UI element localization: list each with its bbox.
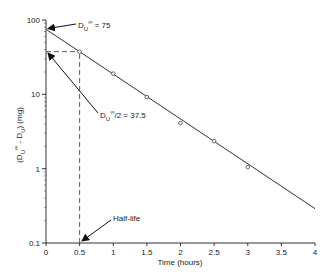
fitted-regression-line [46,29,315,208]
annotation-half-life: Half-life [82,214,141,241]
x-tick-label: 0 [44,248,49,257]
data-point [246,165,250,169]
half-life-reference-lines [46,52,80,243]
arrow-half [48,53,98,113]
x-ticks: 00.511.522.533.54 [44,243,318,257]
arrow-half-life [82,220,111,241]
x-tick-label: 3.5 [276,248,288,257]
x-tick-label: 3 [246,248,251,257]
y-axis-title: (DU∞ - DU) (mg) [13,107,26,163]
annotation-intercept: DU∞ = 75 [48,19,111,32]
half-life-label: Half-life [113,214,141,223]
x-tick-label: 4 [313,248,318,257]
y-ticks: 0.1110100 [27,16,46,248]
data-point [179,121,183,125]
y-tick-label: 10 [31,90,40,99]
data-point [212,139,216,143]
arrow-intercept [48,24,76,29]
semilog-elimination-chart: 0.1110100 00.511.522.533.54 Time (hours)… [0,0,333,278]
half-label: DU∞/2 = 37.5 [100,109,146,122]
y-tick-label: 0.1 [29,239,41,248]
data-point [111,72,115,76]
x-tick-label: 2.5 [209,248,221,257]
intercept-label: DU∞ = 75 [78,19,111,32]
axes [46,20,315,243]
data-point [145,95,149,99]
x-axis-title: Time (hours) [157,258,202,267]
x-tick-label: 0.5 [74,248,86,257]
y-tick-label: 1 [36,165,41,174]
x-tick-label: 2 [178,248,183,257]
x-tick-label: 1 [111,248,116,257]
data-point [78,50,82,54]
y-tick-label: 100 [27,16,41,25]
x-tick-label: 1.5 [141,248,153,257]
